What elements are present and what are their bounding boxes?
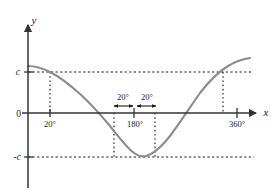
y-tick-label-c: c [16,67,21,77]
cosine-curve [28,58,250,156]
trig-curve-plot: y x 0 c -c 20° 180° 360° 20° 20° [0,0,277,195]
x-axis-label: x [263,106,269,118]
span-label-right: 20° [141,92,153,102]
y-tick-label-minus-c: -c [14,152,22,162]
span-label-left: 20° [117,92,129,102]
x-tick-label-20deg: 20° [44,119,56,129]
origin-label: 0 [16,109,21,119]
x-tick-label-180deg: 180° [127,119,143,129]
x-tick-label-360deg: 360° [229,119,245,129]
figure-container: y x 0 c -c 20° 180° 360° 20° 20° [0,0,277,195]
y-axis-label: y [31,14,37,26]
